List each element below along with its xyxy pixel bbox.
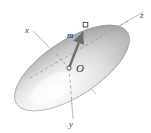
origin-marker bbox=[67, 66, 71, 70]
vector-label-m: m bbox=[67, 32, 73, 40]
axis-label-y: y bbox=[69, 120, 73, 129]
axis-label-x: x bbox=[25, 26, 29, 35]
origin-label: O bbox=[76, 63, 84, 74]
axis-label-z: z bbox=[140, 11, 144, 20]
ellipsoid-coordinate-figure: x z y O m bbox=[0, 0, 151, 133]
surface-point-marker bbox=[83, 22, 88, 27]
